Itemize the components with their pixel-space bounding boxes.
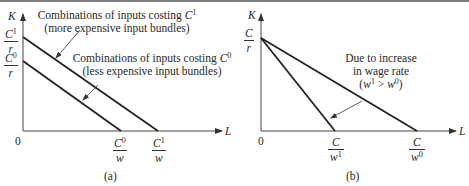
panel-a-pointer-c0 xyxy=(83,85,98,100)
panel-a-annotation-c0: Combinations of inputs costing C0 (less … xyxy=(72,52,232,78)
panel-b-origin: 0 xyxy=(258,135,264,148)
panel-a-y-axis-label: K xyxy=(8,10,16,23)
panel-b-pointer xyxy=(331,101,362,118)
panel-b-caption: (b) xyxy=(346,170,359,183)
panel-a-y-intercept-c0: C0 r xyxy=(4,52,18,79)
panel-a-annotation-c1: Combinations of inputs costing C1 (more … xyxy=(32,9,202,35)
panel-b-x-intercept-w0: C w0 xyxy=(409,136,425,163)
panel-b-isocost-w1 xyxy=(261,38,335,131)
panel-a-x-intercept-c1: C1 w xyxy=(152,137,166,164)
panel-a-origin: 0 xyxy=(15,135,21,148)
panel-b-annotation: Due to increase in wage rate (w1 > w0) xyxy=(336,52,426,91)
panel-a-x-axis-label: L xyxy=(225,125,231,138)
panel-b-x-intercept-w1: C w1 xyxy=(328,136,344,163)
panel-a-caption: (a) xyxy=(104,170,117,183)
panel-b-y-intercept: C r xyxy=(244,27,254,54)
panel-a-x-intercept-c0: C0 w xyxy=(113,137,127,164)
panel-b-y-axis-label: K xyxy=(248,9,256,22)
panel-b-x-axis-label: L xyxy=(459,125,465,138)
